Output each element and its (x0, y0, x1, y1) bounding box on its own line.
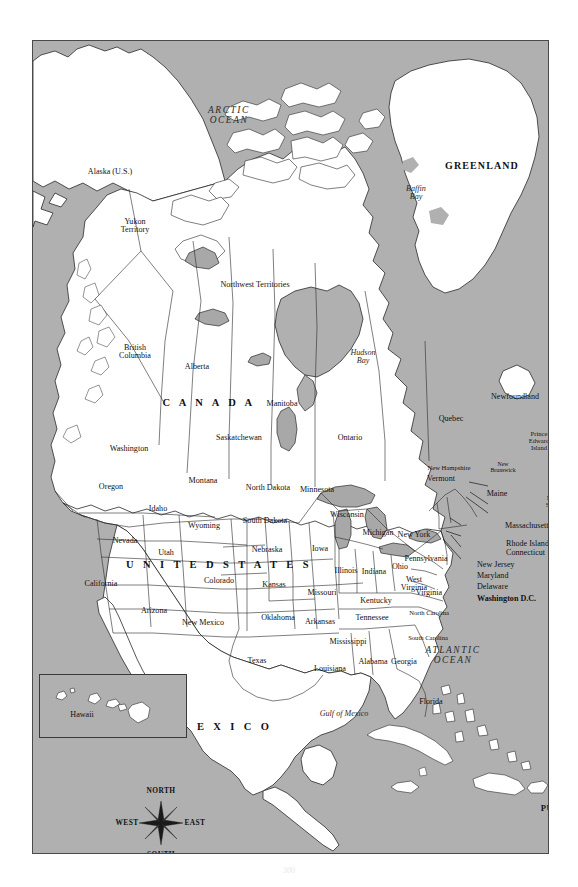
state-label-florida: Florida (419, 698, 442, 706)
state-label-line: Vermont (427, 475, 455, 483)
state-label-line: Louisiana (314, 665, 346, 673)
state-label-maine: Maine (487, 490, 508, 498)
state-label-pennsylvania: Pennsylvania (404, 555, 447, 563)
region-alaska (33, 45, 225, 201)
province-label-quebec: Quebec (439, 415, 464, 423)
state-label-line: South Carolina (408, 635, 448, 642)
callout-label-delaware: Delaware (477, 583, 508, 591)
state-label-iowa: Iowa (312, 545, 328, 553)
state-label-line: North Dakota (246, 484, 290, 492)
state-label-line: Idaho (149, 505, 167, 513)
state-label-indiana: Indiana (362, 568, 386, 576)
map-frame: .land{fill:#ffffff;stroke:#2a2a2a;stroke… (32, 40, 549, 854)
state-label-line: Ohio (392, 563, 408, 571)
north-america-map-figure: .land{fill:#ffffff;stroke:#2a2a2a;stroke… (0, 0, 578, 887)
water-label-baffin-bay: Baffin Bay (406, 185, 426, 202)
ocean-label-atlantic: ATLANTIC OCEAN (425, 646, 480, 666)
state-label-north-carolina: North Carolina (409, 610, 449, 617)
state-label-california: California (85, 580, 118, 588)
state-label-missouri: Missouri (308, 589, 337, 597)
state-label-line: Oregon (99, 483, 123, 491)
island-puerto-rico (527, 781, 548, 793)
state-label-line: Iowa (312, 545, 328, 553)
province-label-british-columbia: British Columbia (119, 344, 151, 361)
state-label-line: Georgia (391, 658, 417, 666)
compass-label-east: EAST (185, 819, 206, 827)
state-label-line: Arkansas (305, 618, 335, 626)
state-label-line: Florida (419, 698, 442, 706)
callout-label-maryland: Maryland (477, 572, 508, 580)
state-label-line: Kentucky (360, 597, 391, 605)
ocean-label-arctic: ARCTIC OCEAN (208, 106, 250, 126)
state-label-west-virginia: WestVirginia (401, 576, 427, 593)
state-label-line: Virginia (401, 584, 427, 592)
territory-label-puerto-rico: PUERTO RICO (541, 804, 549, 822)
state-label-oregon: Oregon (99, 483, 123, 491)
state-label-line: Texas (248, 657, 267, 665)
state-label-north-dakota: North Dakota (246, 484, 290, 492)
state-label-line: Arizona (141, 607, 167, 615)
province-label-ontario: Ontario (338, 434, 363, 442)
state-label-line: Pennsylvania (404, 555, 447, 563)
state-label-wisconsin: Wisconsin (330, 511, 364, 519)
island-hispaniola (473, 773, 525, 795)
state-label-line: New York (398, 531, 431, 539)
state-label-new-hampshire: New Hampshire (427, 465, 470, 472)
state-label-line: Wisconsin (330, 511, 364, 519)
page-number: 300 (0, 866, 578, 875)
state-label-line: Washington (110, 445, 148, 453)
province-label-nova-scotia: Nova Scotia (546, 495, 549, 509)
state-label-vermont: Vermont (427, 475, 455, 483)
state-label-line: South Dakota (243, 517, 287, 525)
island-jamaica (391, 781, 419, 793)
state-label-line: New Mexico (182, 619, 224, 627)
state-label-montana: Montana (189, 477, 218, 485)
callout-label-connecticut: Connecticut (506, 549, 545, 557)
lake-winnipeg (277, 407, 297, 451)
compass-label-south: SOUTH (147, 851, 175, 854)
state-label-alabama: Alabama (358, 658, 387, 666)
hawaii-islands (40, 675, 186, 737)
province-label-northwest-territories: Northwest Territories (220, 281, 289, 289)
state-label-kentucky: Kentucky (360, 597, 391, 605)
state-label-line: Tennessee (355, 614, 388, 622)
country-label-greenland: GREENLAND (445, 161, 519, 172)
state-label-michigan: Michigan (362, 529, 393, 537)
state-label-line: New Hampshire (427, 465, 470, 472)
region-yucatan (301, 745, 337, 785)
state-label-nevada: Nevada (113, 537, 138, 545)
province-label-new-brunswick: New Brunswick (490, 461, 515, 473)
inset-label-hawaii: Hawaii (70, 711, 93, 719)
state-label-south-carolina: South Carolina (408, 635, 448, 642)
state-label-line: Indiana (362, 568, 386, 576)
state-label-tennessee: Tennessee (355, 614, 388, 622)
water-label-hudson-bay: Hudson Bay (350, 349, 375, 366)
callout-leader-lines (443, 482, 488, 559)
state-label-line: North Carolina (409, 610, 449, 617)
state-label-line: Alabama (358, 658, 387, 666)
state-label-georgia: Georgia (391, 658, 417, 666)
state-label-new-mexico: New Mexico (182, 619, 224, 627)
hawaii-inset-box: Hawaii (39, 674, 187, 738)
region-central-america (263, 787, 339, 851)
state-label-line: Nevada (113, 537, 138, 545)
state-label-line: Kansas (262, 581, 285, 589)
state-label-line: Montana (189, 477, 218, 485)
state-label-louisiana: Louisiana (314, 665, 346, 673)
province-label-yukon-territory: Yukon Territory (121, 218, 150, 235)
state-label-line: Oklahoma (261, 614, 295, 622)
state-label-line: Michigan (362, 529, 393, 537)
compass-rose: NORTH SOUTH WEST EAST (115, 783, 207, 854)
state-label-line: Utah (158, 549, 174, 557)
state-label-mississippi: Mississippi (330, 638, 367, 646)
compass-label-west: WEST (116, 819, 139, 827)
state-label-line: Nebraska (252, 546, 283, 554)
callout-label-massachusetts: Massachusetts (505, 522, 549, 530)
province-label-prince-edward-island: Prince Edward Island (529, 431, 549, 452)
state-label-new-york: New York (398, 531, 431, 539)
state-label-ohio: Ohio (392, 563, 408, 571)
callout-label-new-jersey: New Jersey (477, 561, 515, 569)
state-label-line: California (85, 580, 118, 588)
state-label-south-dakota: South Dakota (243, 517, 287, 525)
province-label-manitoba: Manitoba (266, 400, 297, 408)
